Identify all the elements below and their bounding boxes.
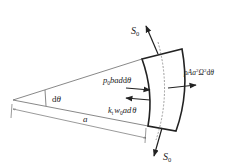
foundation-force-arrow xyxy=(126,98,150,100)
dim-ext-left xyxy=(11,104,12,118)
pressure-force-arrow xyxy=(126,88,150,90)
centrifugal-force-label: ρAa2Ω2dθ xyxy=(183,68,214,77)
s0-bottom-arrow xyxy=(154,128,162,156)
foundation-force-label: ktw0adθ xyxy=(108,105,136,116)
angle-label: dθ xyxy=(52,94,62,104)
s0-top-label: S0 xyxy=(131,25,139,37)
s0-top-arrow xyxy=(146,26,158,54)
angle-tick xyxy=(45,90,46,106)
s0-bottom-label: S0 xyxy=(163,151,171,163)
pressure-force-label: p0baddθ xyxy=(102,75,131,86)
centrifugal-force-arrow xyxy=(168,85,196,88)
dim-ext-right xyxy=(145,128,146,143)
mid-surface-dashed-arc xyxy=(156,42,165,140)
ring-element-diagram: S0 S0 p0baddθ ktw0adθ ρAa2Ω2dθ dθ a xyxy=(0,0,235,166)
radius-label: a xyxy=(83,114,88,124)
